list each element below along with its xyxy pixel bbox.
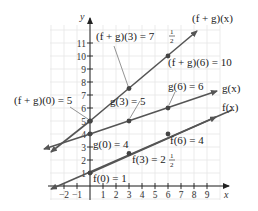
svg-text:2: 2 — [170, 161, 174, 169]
label-g6: g(6) = 6 — [168, 80, 204, 93]
svg-text:1: 1 — [170, 152, 174, 160]
svg-text:(f + g)(3) = 7: (f + g)(3) = 7 — [96, 30, 155, 43]
svg-text:3: 3 — [127, 190, 132, 200]
svg-text:10: 10 — [77, 52, 87, 62]
label-f6: f(6) = 4 — [170, 134, 204, 147]
x-axis-label: x — [223, 189, 229, 200]
point-f0 — [88, 171, 93, 176]
svg-text:4: 4 — [140, 190, 145, 200]
svg-text:7: 7 — [81, 91, 86, 101]
point-g0 — [88, 132, 93, 137]
svg-text:6: 6 — [81, 104, 86, 114]
svg-text:4: 4 — [81, 130, 86, 140]
label-fgx: (f + g)(x) — [192, 12, 233, 25]
svg-text:9: 9 — [205, 190, 210, 200]
label-gx: g(x) — [222, 82, 241, 95]
point-fg0 — [87, 118, 92, 123]
label-g3: g(3) = 5 — [110, 95, 146, 108]
label-f0: f(0) = 1 — [93, 172, 127, 185]
label-g0: g(0) = 4 — [93, 138, 129, 151]
svg-text:f(3) = 2: f(3) = 2 — [132, 153, 166, 166]
label-fg0: (f + g)(0) = 5 — [14, 94, 73, 107]
svg-text:1: 1 — [101, 190, 106, 200]
svg-text:8: 8 — [192, 190, 197, 200]
svg-text:2: 2 — [81, 156, 86, 166]
y-axis-ticks: 1234567891011 — [77, 39, 94, 179]
grid — [50, 25, 220, 200]
svg-text:−1: −1 — [72, 190, 82, 200]
function-sum-chart: −2−1123456789 1234567891011 x y (f + g)(… — [0, 0, 258, 211]
point-f3 — [127, 151, 132, 156]
y-axis-label: y — [79, 11, 85, 22]
svg-text:6: 6 — [166, 190, 171, 200]
point-g3 — [127, 119, 132, 124]
svg-text:9: 9 — [81, 65, 86, 75]
label-fg6: (f + g)(6) = 10 — [168, 56, 232, 69]
point-g6 — [166, 106, 171, 111]
label-fg3: (f + g)(3) = 7 1 2 — [96, 28, 175, 45]
label-f3: f(3) = 2 1 2 — [132, 152, 175, 169]
svg-text:11: 11 — [77, 39, 86, 49]
svg-text:2: 2 — [170, 37, 174, 45]
svg-text:7: 7 — [179, 190, 184, 200]
svg-text:3: 3 — [81, 143, 86, 153]
svg-text:2: 2 — [114, 190, 119, 200]
point-fg3 — [127, 86, 132, 91]
svg-text:5: 5 — [153, 190, 158, 200]
svg-text:8: 8 — [81, 78, 86, 88]
svg-text:−2: −2 — [59, 190, 69, 200]
label-fx: f(x) — [222, 101, 239, 114]
svg-text:1: 1 — [170, 28, 174, 36]
